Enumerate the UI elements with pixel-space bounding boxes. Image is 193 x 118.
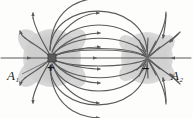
label-a2-subscript: 2 <box>179 76 183 84</box>
label-a1-subscript: 1 <box>15 76 19 84</box>
dipole-field-diagram <box>0 0 193 118</box>
figure-canvas: + – A1 A2 <box>0 0 193 118</box>
positive-charge-sign: + <box>47 61 55 74</box>
negative-charge-sign: – <box>142 61 149 74</box>
label-a1: A1 <box>7 69 19 84</box>
label-a2: A2 <box>171 69 183 84</box>
label-a1-base: A <box>7 68 15 83</box>
label-a2-base: A <box>171 68 179 83</box>
